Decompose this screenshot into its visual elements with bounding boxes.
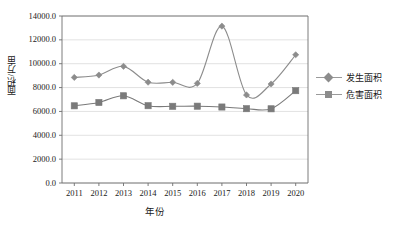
x-tick-label: 2020: [280, 188, 312, 198]
legend-label: 危害面积: [346, 88, 382, 101]
line-chart-figure: 面积/万亩 0.02000.04000.06000.08000.010000.0…: [0, 0, 401, 227]
chart-legend: 发生面积 危害面积: [316, 69, 400, 103]
data-point-marker: [268, 106, 274, 112]
y-tick-label: 6000.0: [12, 106, 56, 116]
data-point-marker: [145, 79, 151, 85]
y-tick-label: 4000.0: [12, 130, 56, 140]
y-tick-label: 10000.0: [12, 58, 56, 68]
data-point-marker: [219, 104, 225, 110]
data-point-marker: [71, 103, 77, 109]
y-tick-label: 0.0: [12, 178, 56, 188]
data-point-marker: [120, 93, 126, 99]
data-point-marker: [145, 103, 151, 109]
data-point-marker: [170, 79, 176, 85]
data-point-marker: [194, 103, 200, 109]
square-marker-icon: [316, 88, 342, 102]
legend-item-occurrence-area[interactable]: 发生面积: [316, 69, 400, 86]
data-point-marker: [293, 88, 299, 94]
legend-item-damage-area[interactable]: 危害面积: [316, 86, 400, 103]
y-tick-label: 14000.0: [12, 11, 56, 21]
data-point-marker: [71, 74, 77, 80]
data-point-marker: [96, 72, 102, 78]
data-point-marker: [170, 103, 176, 109]
legend-label: 发生面积: [346, 71, 382, 84]
data-point-marker: [96, 99, 102, 105]
series-line: [74, 91, 295, 111]
series-damage-area: [71, 88, 299, 112]
x-axis-title: 年份: [0, 204, 310, 218]
data-point-marker: [243, 106, 249, 112]
series-occurrence-area: [71, 23, 299, 98]
diamond-marker-icon: [316, 71, 342, 85]
y-tick-label: 2000.0: [12, 154, 56, 164]
data-point-marker: [120, 63, 126, 69]
y-tick-label: 8000.0: [12, 82, 56, 92]
y-tick-label: 12000.0: [12, 34, 56, 44]
